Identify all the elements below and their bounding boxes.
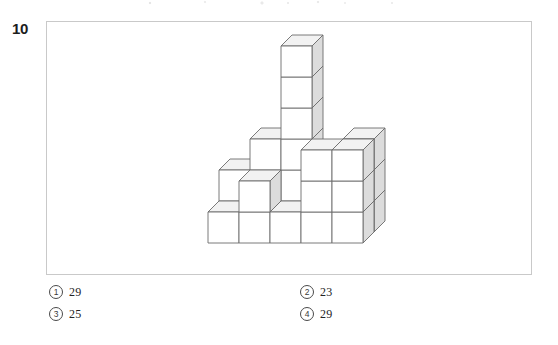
answer-choice-4[interactable]: 4 29 (300, 308, 333, 322)
cube-face (332, 150, 363, 181)
cube-face (281, 46, 312, 77)
answer-choice-2[interactable]: 2 23 (300, 286, 333, 300)
cube-face (301, 212, 332, 243)
answer-choices: 1 29 2 23 3 25 4 29 (46, 286, 532, 332)
choice-marker-3: 3 (49, 307, 63, 321)
cube-face (281, 77, 312, 108)
unit-cube (332, 139, 374, 181)
figure-frame (46, 21, 532, 275)
choice-marker-1: 1 (49, 285, 63, 299)
cube-face (270, 212, 301, 243)
choice-marker-2: 2 (300, 285, 314, 299)
cube-face (301, 150, 332, 181)
choice-text-2: 23 (320, 286, 333, 299)
unit-cube (281, 35, 323, 77)
choice-text-3: 25 (69, 308, 82, 321)
cube-face (301, 181, 332, 212)
unit-cube (239, 170, 281, 212)
cube-face (250, 139, 281, 170)
cube-face (332, 212, 363, 243)
choice-text-4: 29 (320, 308, 333, 321)
choice-text-1: 29 (69, 286, 82, 299)
scan-noise-strip (0, 0, 558, 7)
cube-face (208, 212, 239, 243)
choice-marker-4: 4 (300, 307, 314, 321)
cube-face (281, 108, 312, 139)
answer-choice-1[interactable]: 1 29 (49, 286, 82, 300)
question-number: 10 (12, 21, 28, 37)
cube-face (239, 212, 270, 243)
cube-stack-figure (47, 22, 531, 274)
cube-face (332, 181, 363, 212)
worksheet-page: 10 1 29 2 23 3 25 4 29 (0, 0, 558, 345)
answer-choice-3[interactable]: 3 25 (49, 308, 82, 322)
cube-face (239, 181, 270, 212)
